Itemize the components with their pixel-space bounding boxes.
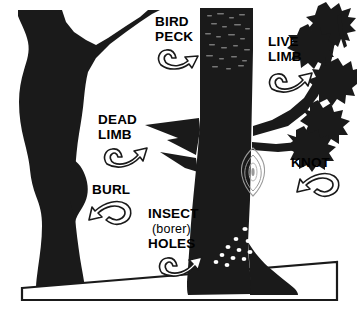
tree-defects-diagram: BIRD PECK LIVE LIMB DEAD LIMB KNOT BURL … bbox=[0, 0, 357, 318]
bird-peck-label-line2: PECK bbox=[155, 29, 193, 44]
dead-limb-label-line1: DEAD bbox=[98, 112, 137, 127]
diagram-canvas: BIRD PECK LIVE LIMB DEAD LIMB KNOT BURL … bbox=[0, 0, 357, 318]
burl-label: BURL bbox=[92, 182, 130, 197]
insect-holes-label-line3: HOLES bbox=[148, 236, 196, 251]
insect-holes-label-line1: INSECT bbox=[148, 206, 199, 221]
knot-label: KNOT bbox=[291, 155, 331, 170]
live-limb-label-line2: LIMB bbox=[268, 49, 302, 64]
bird-peck-label-line1: BIRD bbox=[155, 14, 189, 29]
insect-holes-label-line2: (borer) bbox=[152, 222, 191, 236]
dead-limb-label-line2: LIMB bbox=[98, 127, 132, 142]
knot-center bbox=[251, 168, 254, 176]
live-limb-label-line1: LIVE bbox=[268, 34, 299, 49]
